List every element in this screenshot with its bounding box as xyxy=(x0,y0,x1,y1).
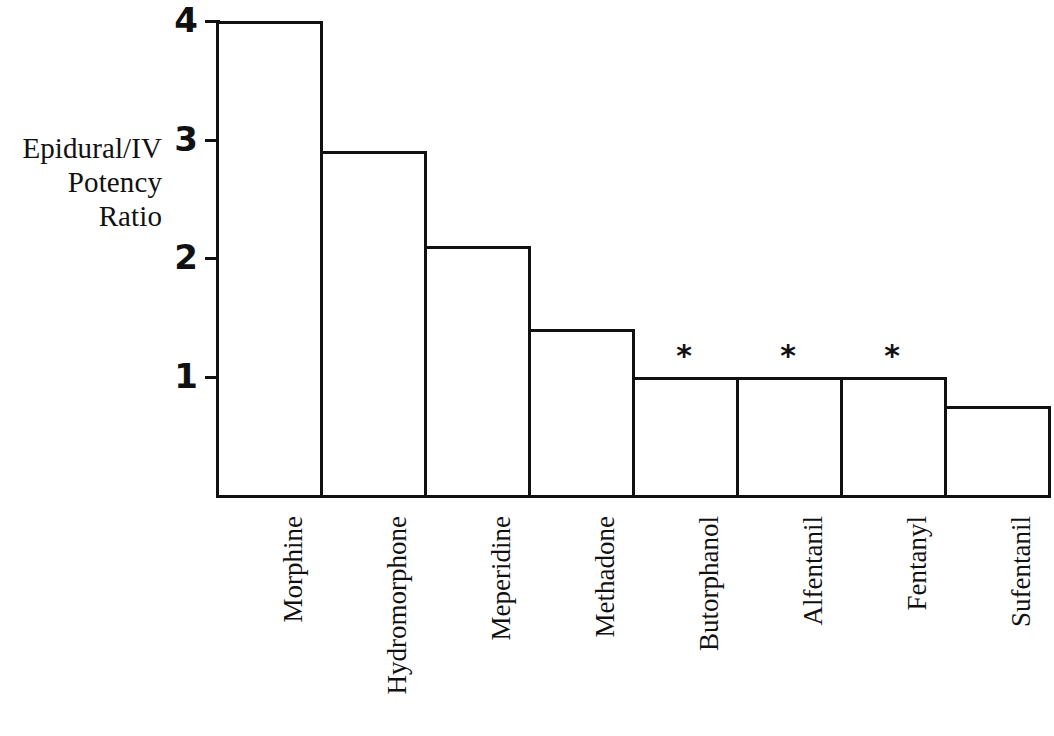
y-axis-title-line-2: Potency xyxy=(0,165,162,199)
y-tick-label: 2 xyxy=(158,240,198,274)
y-tick-label: 1 xyxy=(158,359,198,393)
significance-asterisk: * xyxy=(664,341,704,371)
x-axis-category-label: Morphine xyxy=(280,516,307,622)
bar xyxy=(216,21,323,498)
plot-area: *** xyxy=(216,0,1054,498)
bar xyxy=(528,329,635,498)
bar xyxy=(424,246,531,498)
bar xyxy=(840,377,947,499)
x-axis-category-label: Sufentanil xyxy=(1008,516,1035,627)
x-axis-category-label: Hydromorphone xyxy=(384,516,411,694)
bar xyxy=(944,406,1051,498)
bar xyxy=(320,151,427,498)
significance-asterisk: * xyxy=(872,341,912,371)
y-tick-label: 3 xyxy=(158,122,198,156)
bar-chart: Epidural/IV Potency Ratio 1234 *** Morph… xyxy=(0,0,1054,736)
y-axis-title: Epidural/IV Potency Ratio xyxy=(0,131,162,233)
x-axis-category-label: Butorphanol xyxy=(696,516,723,651)
y-tick-label: 4 xyxy=(158,3,198,37)
x-axis-category-label: Fentanyl xyxy=(904,516,931,611)
x-axis-category-label: Meperidine xyxy=(488,516,515,640)
bar xyxy=(632,377,739,499)
y-axis-title-line-1: Epidural/IV xyxy=(0,131,162,165)
x-axis-category-label: Methadone xyxy=(592,516,619,637)
y-axis-title-line-3: Ratio xyxy=(0,199,162,233)
bar xyxy=(736,377,843,499)
significance-asterisk: * xyxy=(768,341,808,371)
x-axis-category-label: Alfentanil xyxy=(800,516,827,625)
